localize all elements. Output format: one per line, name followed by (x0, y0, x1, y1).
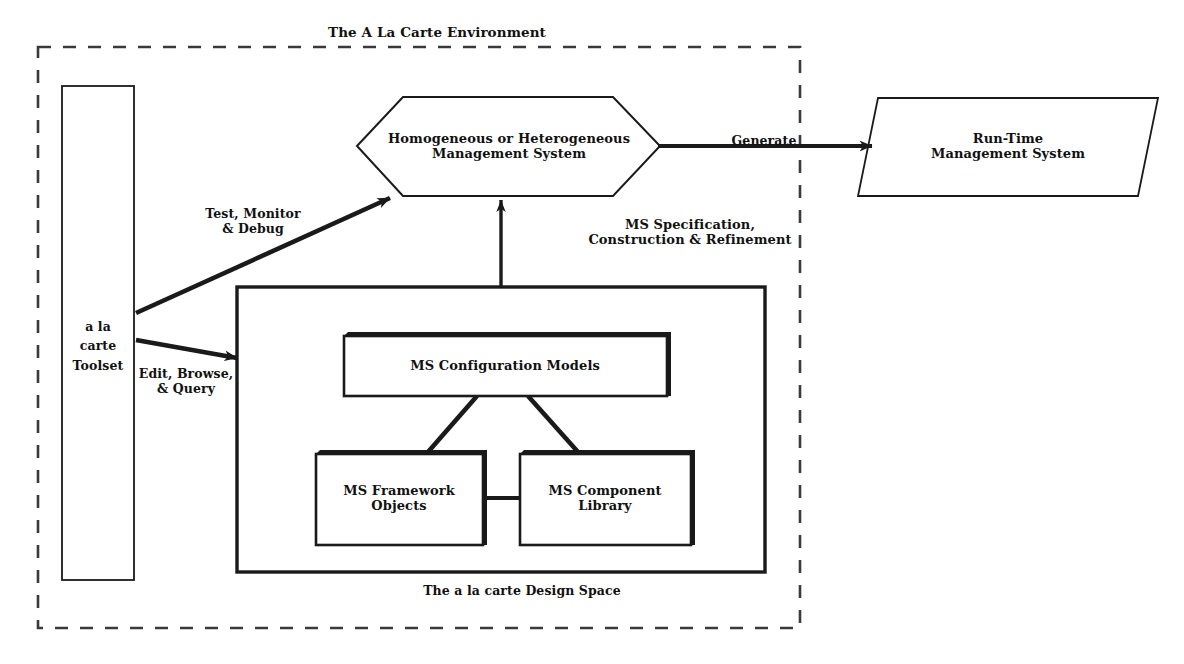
edge-label-generate: Generate (732, 134, 797, 149)
edge-label-ms-specification: MS Specification, Construction & Refinem… (588, 217, 791, 248)
edge-label-edit-browse-query: Edit, Browse, & Query (139, 367, 233, 397)
framework-objects-label: MS Framework Objects (343, 483, 455, 514)
toolset-label: a la carte Toolset (73, 317, 124, 375)
environment-title: The A La Carte Environment (328, 25, 546, 41)
runtime-system-label: Run-Time Management System (931, 131, 1085, 162)
management-system-label: Homogeneous or Heterogeneous Management … (388, 131, 630, 162)
component-library-label: MS Component Library (548, 483, 661, 514)
diagram-canvas: The A La Carte Environment Homogeneous o… (0, 0, 1184, 664)
arrow-edit-browse-query (136, 340, 237, 358)
diagram-shapes-layer (0, 0, 1184, 664)
edge-label-test-monitor-debug: Test, Monitor & Debug (205, 207, 300, 237)
config-models-label: MS Configuration Models (410, 358, 600, 373)
design-space-label: The a la carte Design Space (423, 584, 621, 599)
